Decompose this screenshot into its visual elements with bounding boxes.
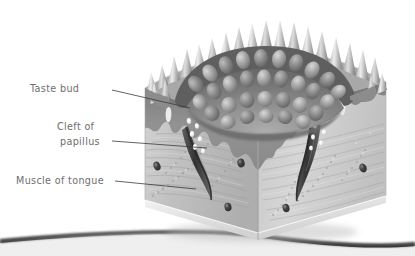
tongue-papilla-figure: Taste bud Cleft of papillus Muscle of to… <box>0 0 415 256</box>
label-taste-bud-text: Taste bud <box>29 83 79 94</box>
label-cleft-of-papillus-line-2: papillus <box>60 136 100 147</box>
label-cleft-of-papillus-line-1: Cleft of <box>57 121 95 132</box>
label-muscle-of-tongue-text: Muscle of tongue <box>16 175 104 186</box>
